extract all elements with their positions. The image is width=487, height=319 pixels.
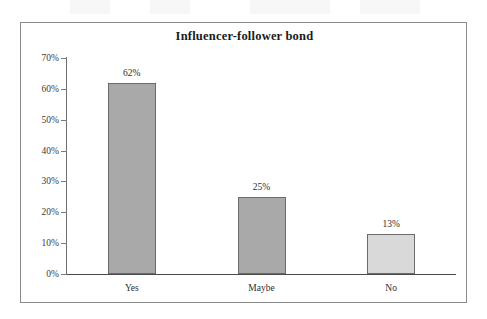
y-axis-tick	[61, 274, 67, 275]
x-axis-line	[66, 274, 456, 275]
chart-title: Influencer-follower bond	[21, 29, 468, 44]
x-axis-category-label: No	[351, 283, 431, 293]
bar-value-label: 62%	[102, 68, 162, 78]
y-axis-tick	[61, 151, 67, 152]
y-axis-tick-label: 30%	[25, 176, 59, 186]
y-axis-tick-label: 0%	[25, 269, 59, 279]
y-axis-tick-label: 20%	[25, 207, 59, 217]
y-axis-tick	[61, 243, 67, 244]
y-axis-tick	[61, 212, 67, 213]
y-axis-tick	[61, 89, 67, 90]
bar-value-label: 25%	[232, 182, 292, 192]
y-axis-tick-label: 60%	[25, 84, 59, 94]
y-axis-tick-label: 70%	[25, 53, 59, 63]
y-axis-tick	[61, 181, 67, 182]
scan-noise-artifact	[0, 0, 487, 14]
y-axis-tick	[61, 120, 67, 121]
bar	[108, 83, 156, 274]
bar	[367, 234, 415, 274]
x-axis-category-label: Maybe	[222, 283, 302, 293]
y-axis-tick	[61, 58, 67, 59]
chart-frame: Influencer-follower bond 0%10%20%30%40%5…	[20, 22, 467, 303]
bar-value-label: 13%	[361, 219, 421, 229]
bar	[238, 197, 286, 274]
y-axis-tick-label: 10%	[25, 238, 59, 248]
y-axis-tick-label: 50%	[25, 115, 59, 125]
y-axis-tick-label: 40%	[25, 146, 59, 156]
x-axis-category-label: Yes	[92, 283, 172, 293]
